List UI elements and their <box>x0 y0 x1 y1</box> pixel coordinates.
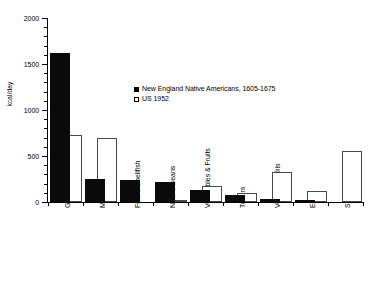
y-axis-major-tick <box>42 156 47 157</box>
y-axis-minor-tick <box>44 101 47 102</box>
bar-group <box>85 18 120 202</box>
y-axis-minor-tick <box>44 46 47 47</box>
y-axis-minor-tick <box>44 92 47 93</box>
x-axis-tick <box>328 202 329 206</box>
bar-native-americans <box>295 200 315 202</box>
y-axis-minor-tick <box>44 128 47 129</box>
y-axis-major-tick <box>42 202 47 203</box>
x-axis-tick <box>83 202 84 206</box>
legend-item: New England Native Americans, 1605-1675 <box>134 84 275 94</box>
y-axis-minor-tick <box>44 165 47 166</box>
legend-item: US 1952 <box>134 94 275 104</box>
x-axis-tick <box>223 202 224 206</box>
chart-legend: New England Native Americans, 1605-1675 … <box>134 84 275 104</box>
bar-us-1952 <box>342 151 362 202</box>
bar-group <box>330 18 365 202</box>
y-axis-minor-tick <box>44 184 47 185</box>
bar-group <box>260 18 295 202</box>
bar-group <box>50 18 85 202</box>
y-axis-tick-label: 1000 <box>11 107 39 114</box>
y-axis-minor-tick <box>44 73 47 74</box>
x-axis-tick <box>48 202 49 206</box>
y-axis-minor-tick <box>44 147 47 148</box>
bar-group <box>225 18 260 202</box>
bar-native-americans <box>225 195 245 202</box>
bar-native-americans <box>260 199 280 202</box>
bar-native-americans <box>50 53 70 202</box>
bar-native-americans <box>155 182 175 202</box>
x-axis-tick <box>188 202 189 206</box>
x-axis-tick <box>153 202 154 206</box>
y-axis-minor-tick <box>44 193 47 194</box>
bar-group <box>295 18 330 202</box>
legend-swatch-filled-square-icon <box>134 87 139 92</box>
x-axis-tick <box>363 202 364 206</box>
bar-us-1952 <box>272 172 292 202</box>
x-axis-tick <box>118 202 119 206</box>
bar-native-americans <box>120 180 140 202</box>
y-axis-minor-tick <box>44 82 47 83</box>
y-axis-major-tick <box>42 64 47 65</box>
y-axis-minor-tick <box>44 138 47 139</box>
y-axis-minor-tick <box>44 119 47 120</box>
bar-chart: kcal/day 0500100015002000 GrainMeat & Fo… <box>0 0 374 292</box>
bar-native-americans <box>85 179 105 202</box>
y-axis-minor-tick <box>44 174 47 175</box>
bar-native-americans <box>190 190 210 202</box>
y-axis-title: kcal/day <box>4 62 16 126</box>
y-axis-tick-label: 500 <box>11 153 39 160</box>
legend-label: New England Native Americans, 1605-1675 <box>142 84 275 94</box>
x-axis-tick <box>258 202 259 206</box>
y-axis-major-tick <box>42 18 47 19</box>
y-axis-tick-label: 2000 <box>11 15 39 22</box>
x-axis-tick <box>293 202 294 206</box>
legend-swatch-open-square-icon <box>134 97 139 102</box>
y-axis-major-tick <box>42 110 47 111</box>
y-axis-minor-tick <box>44 36 47 37</box>
y-axis-minor-tick <box>44 55 47 56</box>
legend-label: US 1952 <box>142 94 169 104</box>
y-axis-minor-tick <box>44 27 47 28</box>
y-axis-tick-label: 1500 <box>11 61 39 68</box>
y-axis-tick-label: 0 <box>11 199 39 206</box>
